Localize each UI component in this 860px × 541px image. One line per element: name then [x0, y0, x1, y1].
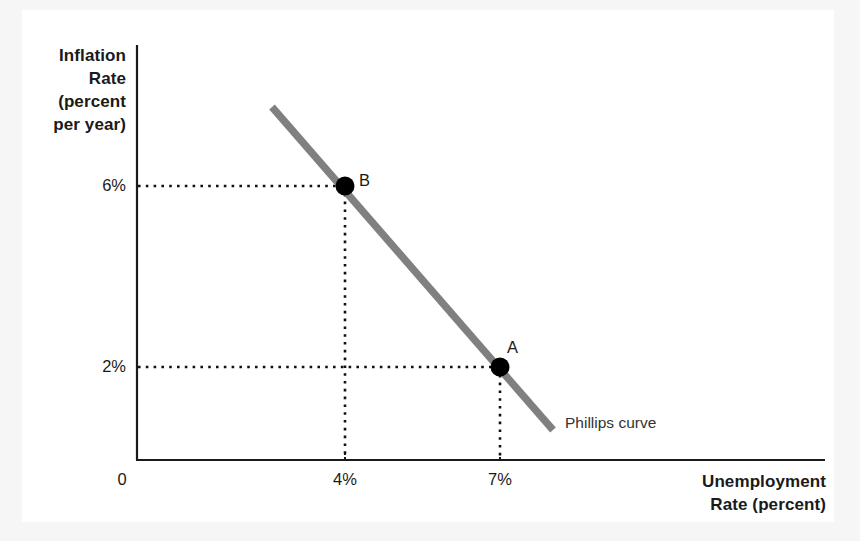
data-point-label-a: A — [507, 338, 518, 357]
x-tick-label-0: 0 — [104, 470, 140, 489]
data-point-b — [336, 177, 355, 196]
data-point-a — [491, 358, 510, 377]
phillips-curve-label: Phillips curve — [565, 414, 656, 432]
y-tick-label-2: 2% — [78, 357, 126, 376]
data-point-label-b: B — [359, 171, 370, 190]
chart-canvas — [0, 0, 860, 541]
y-tick-label-6: 6% — [78, 176, 126, 195]
x-tick-label-4: 4% — [321, 470, 369, 489]
y-axis-title: Inflation Rate (percent per year) — [26, 44, 126, 136]
phillips-curve-figure: Inflation Rate (percent per year) Unempl… — [0, 0, 860, 541]
phillips-curve-line — [272, 107, 553, 430]
x-axis-title: Unemployment Rate (percent) — [610, 470, 826, 516]
x-tick-label-7: 7% — [476, 470, 524, 489]
